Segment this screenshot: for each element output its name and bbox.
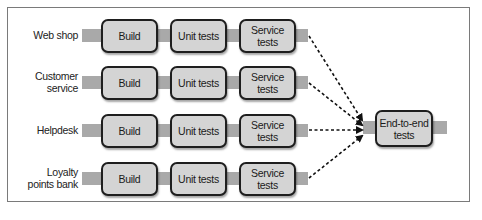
arrow-icon <box>309 36 362 120</box>
arrow-icon <box>309 136 362 178</box>
arrow-icon <box>309 83 362 125</box>
cropped-caption <box>8 210 474 220</box>
fan-in-arrows <box>0 0 482 220</box>
